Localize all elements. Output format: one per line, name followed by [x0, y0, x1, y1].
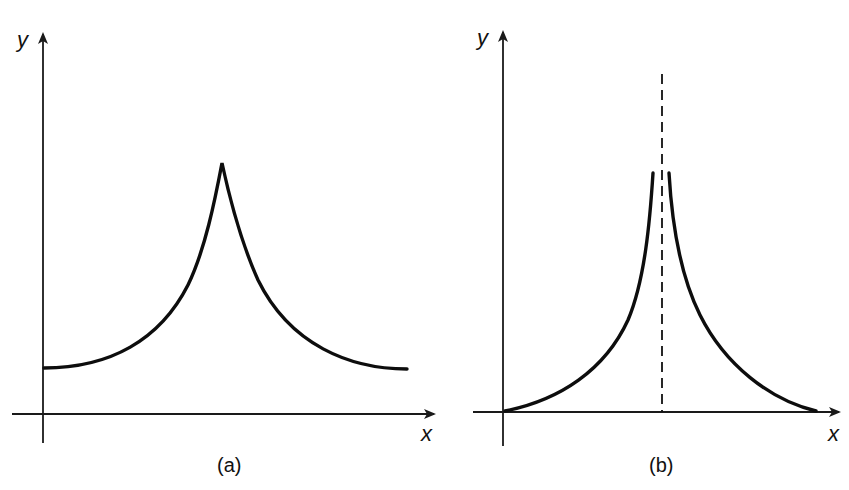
panel-b: y x (b): [473, 25, 840, 476]
panel-a: y x (a): [12, 27, 434, 476]
panel-a-cusp-curve: [44, 163, 407, 369]
panel-b-left-branch: [505, 173, 653, 411]
panel-b-y-label: y: [475, 25, 490, 50]
figure-canvas: y x (a) y x (b): [0, 0, 849, 490]
panel-a-x-label: x: [420, 421, 433, 446]
panel-b-x-label: x: [827, 421, 840, 446]
panel-a-y-label: y: [15, 27, 30, 52]
panel-b-right-branch: [669, 173, 816, 411]
panel-b-caption: (b): [649, 454, 673, 476]
panel-a-caption: (a): [217, 454, 241, 476]
